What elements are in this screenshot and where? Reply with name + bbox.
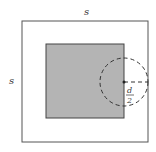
top-side-label: s	[84, 6, 89, 17]
radius-label-denominator: 2	[126, 96, 132, 105]
left-side-label: s	[9, 75, 14, 86]
circle-center-dot	[123, 81, 126, 84]
diagram-canvas: s s d 2	[0, 0, 156, 152]
inner-gray-square	[46, 44, 124, 118]
radius-label-numerator: d	[127, 86, 132, 95]
